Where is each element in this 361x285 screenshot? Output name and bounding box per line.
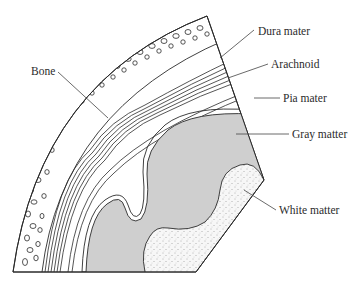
label-bone: Bone [31, 65, 55, 77]
label-pia-mater: Pia mater [283, 92, 327, 104]
label-white-matter: White matter [279, 204, 340, 216]
label-gray-matter: Gray matter [292, 128, 347, 141]
dura-leader [220, 30, 254, 58]
arachnoid-leader [228, 64, 268, 78]
label-arachnoid: Arachnoid [271, 58, 320, 70]
label-dura-mater: Dura mater [258, 25, 310, 37]
meninges-diagram: Bone Dura mater Arachnoid Pia mater Gray… [0, 0, 361, 285]
